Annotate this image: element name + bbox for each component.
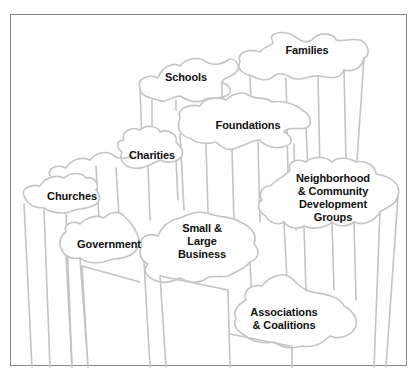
label-line: Foundations bbox=[210, 119, 286, 132]
label-line: Neighborhood bbox=[290, 172, 376, 185]
label-churches: Churches bbox=[42, 190, 102, 203]
label-associations: Associations & Coalitions bbox=[246, 306, 322, 332]
label-foundations: Foundations bbox=[210, 119, 286, 132]
label-line: Government bbox=[74, 238, 144, 251]
label-line: & Community bbox=[290, 185, 376, 198]
label-line: Groups bbox=[290, 211, 376, 224]
label-neighborhood: Neighborhood & Community Development Gro… bbox=[290, 172, 376, 224]
label-families: Families bbox=[272, 44, 342, 57]
label-line: Large bbox=[172, 235, 232, 248]
label-line: Small & bbox=[172, 222, 232, 235]
government-pillar bbox=[60, 212, 140, 367]
label-business: Small & Large Business bbox=[172, 222, 232, 261]
label-charities: Charities bbox=[120, 149, 184, 162]
label-line: Charities bbox=[120, 149, 184, 162]
label-government: Government bbox=[74, 238, 144, 251]
label-line: Churches bbox=[42, 190, 102, 203]
label-line: & Coalitions bbox=[246, 319, 322, 332]
label-schools: Schools bbox=[156, 71, 216, 84]
label-line: Schools bbox=[156, 71, 216, 84]
label-line: Development bbox=[290, 198, 376, 211]
label-line: Families bbox=[272, 44, 342, 57]
label-line: Associations bbox=[246, 306, 322, 319]
label-line: Business bbox=[172, 248, 232, 261]
